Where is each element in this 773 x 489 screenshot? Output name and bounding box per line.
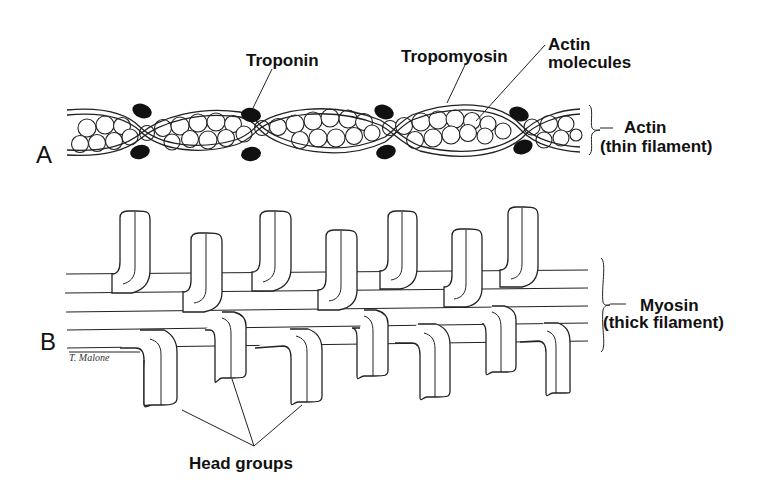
head-group: [500, 207, 538, 287]
actin-molecules-label-line2: molecules: [548, 53, 631, 72]
head-group: [205, 312, 246, 382]
myosin-label-line2: (thick filament): [603, 313, 724, 332]
head-group: [318, 230, 357, 310]
head-group: [255, 329, 322, 405]
myosin-head-groups-up: [112, 207, 538, 312]
head-group: [395, 324, 450, 400]
head-group: [112, 211, 150, 293]
tropomyosin-leader-line: [447, 65, 465, 103]
head-group: [252, 211, 291, 291]
muscle-filament-diagram: A Troponin Tropomyosin Actin molecules A…: [0, 0, 773, 489]
head-groups-leader-lines: [182, 379, 302, 446]
myosin-thick-filament: [65, 207, 626, 446]
head-group: [352, 310, 388, 379]
head-group: [120, 330, 177, 407]
panel-b-letter: B: [40, 328, 56, 355]
actin-molecules-label-line1: Actin: [548, 35, 591, 54]
head-group: [482, 306, 516, 375]
myosin-head-groups-down: [120, 306, 570, 407]
head-group: [380, 211, 417, 289]
panel-a-letter: A: [36, 141, 52, 168]
head-group: [183, 233, 222, 312]
troponin-leader-line: [253, 69, 272, 108]
actin-brace: [589, 105, 600, 155]
actin-thin-filament: [67, 45, 613, 163]
myosin-brace: [601, 258, 610, 352]
troponin-label: Troponin: [246, 51, 319, 70]
actin-label-line1: Actin: [624, 118, 667, 137]
actin-label-line2: (thin filament): [600, 137, 712, 156]
tropomyosin-label: Tropomyosin: [401, 47, 508, 66]
head-groups-label: Head groups: [189, 454, 293, 473]
artist-signature: T. Malone: [69, 352, 110, 363]
head-group: [520, 323, 570, 396]
head-group: [444, 229, 482, 307]
